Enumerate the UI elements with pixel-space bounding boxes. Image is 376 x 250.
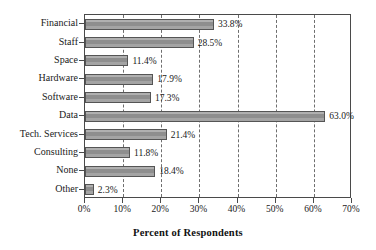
y-axis-tick — [79, 134, 84, 135]
bar-row: 18.4% — [85, 162, 184, 180]
x-axis-tick-label: 10% — [113, 204, 130, 214]
bar-tech-services — [85, 129, 167, 140]
x-axis-tick — [313, 198, 314, 203]
x-axis-tick — [275, 198, 276, 203]
x-axis-tick-label: 30% — [190, 204, 207, 214]
bar-space — [85, 55, 128, 66]
x-axis-tick-label: 60% — [304, 204, 321, 214]
y-axis-tick — [79, 152, 84, 153]
y-axis-tick — [79, 78, 84, 79]
bar-consulting — [85, 147, 130, 158]
x-axis-tick — [160, 198, 161, 203]
x-axis-tick-label: 40% — [228, 204, 245, 214]
bar-value-label: 63.0% — [329, 111, 354, 121]
y-axis-tick — [79, 60, 84, 61]
bar-row: 2.3% — [85, 181, 118, 199]
bar-value-label: 2.3% — [98, 185, 118, 195]
bar-row: 11.8% — [85, 144, 158, 162]
x-axis-tick-label: 50% — [266, 204, 283, 214]
category-label-space: Space — [0, 55, 78, 65]
bars-container: 33.8%28.5%11.4%17.9%17.3%63.0%21.4%11.8%… — [85, 15, 350, 197]
category-label-tech-services: Tech. Services — [0, 129, 78, 139]
bar-value-label: 28.5% — [198, 38, 223, 48]
x-axis-tick-label: 70% — [342, 204, 359, 214]
x-axis-title: Percent of Respondents — [0, 227, 376, 238]
category-label-none: None — [0, 165, 78, 175]
bar-staff — [85, 37, 194, 48]
bar-row: 33.8% — [85, 15, 242, 33]
bar-software — [85, 92, 151, 103]
bar-value-label: 11.4% — [132, 56, 156, 66]
bar-chart: FinancialStaffSpaceHardwareSoftwareDataT… — [0, 0, 376, 250]
y-axis-tick — [79, 189, 84, 190]
plot-area: 33.8%28.5%11.4%17.9%17.3%63.0%21.4%11.8%… — [84, 14, 351, 198]
category-label-data: Data — [0, 110, 78, 120]
category-label-hardware: Hardware — [0, 73, 78, 83]
y-axis-tick — [79, 42, 84, 43]
bar-value-label: 18.4% — [159, 166, 184, 176]
x-axis-tick — [237, 198, 238, 203]
x-axis-tick-label: 0% — [78, 204, 91, 214]
x-axis-tick — [198, 198, 199, 203]
bar-value-label: 21.4% — [171, 130, 196, 140]
x-axis-tick-label: 20% — [152, 204, 169, 214]
x-axis-tick — [122, 198, 123, 203]
bar-row: 11.4% — [85, 52, 157, 70]
category-label-software: Software — [0, 92, 78, 102]
y-axis-tick — [79, 115, 84, 116]
bar-other — [85, 184, 94, 195]
x-axis-tick — [351, 198, 352, 203]
bar-value-label: 11.8% — [134, 148, 158, 158]
category-axis-labels: FinancialStaffSpaceHardwareSoftwareDataT… — [0, 14, 80, 198]
bar-value-label: 17.9% — [157, 74, 182, 84]
category-label-staff: Staff — [0, 37, 78, 47]
bar-value-label: 33.8% — [218, 19, 243, 29]
bar-financial — [85, 19, 214, 30]
x-axis-tick — [84, 198, 85, 203]
bar-row: 28.5% — [85, 33, 222, 51]
y-axis-tick — [79, 23, 84, 24]
bar-row: 17.9% — [85, 70, 182, 88]
bar-data — [85, 111, 325, 122]
bar-row: 63.0% — [85, 107, 354, 125]
y-axis-tick — [79, 170, 84, 171]
bar-row: 17.3% — [85, 89, 180, 107]
bar-hardware — [85, 74, 153, 85]
bar-row: 21.4% — [85, 125, 195, 143]
category-label-other: Other — [0, 184, 78, 194]
category-label-consulting: Consulting — [0, 147, 78, 157]
y-axis-tick — [79, 97, 84, 98]
bar-value-label: 17.3% — [155, 93, 180, 103]
category-label-financial: Financial — [0, 18, 78, 28]
bar-none — [85, 166, 155, 177]
